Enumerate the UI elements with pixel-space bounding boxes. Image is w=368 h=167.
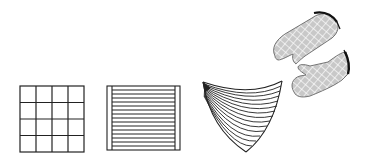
oven-mitt-upper (274, 12, 340, 64)
fan-potholder (203, 81, 282, 152)
kitchen-textiles-illustration (0, 0, 368, 167)
grid-potholder (20, 86, 84, 152)
striped-potholder (107, 86, 180, 150)
